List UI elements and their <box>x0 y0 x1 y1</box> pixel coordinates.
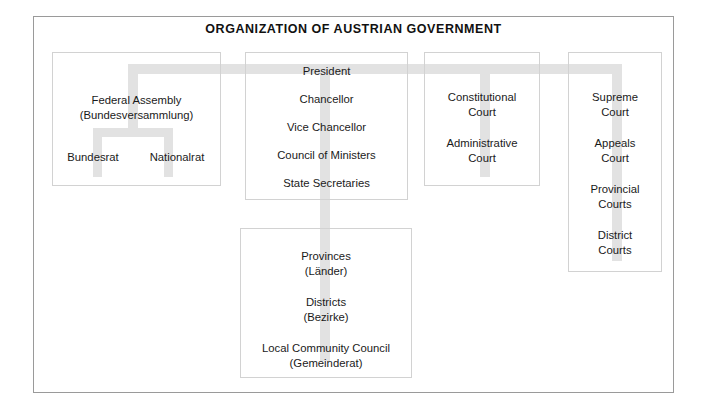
node-president: President <box>246 64 407 78</box>
box-federal-assembly: Federal Assembly (Bundesversammlung) Bun… <box>52 52 221 186</box>
node-district-courts-line1: District <box>569 228 661 242</box>
node-appeals-court-line1: Appeals <box>569 136 661 150</box>
box-high-courts: Constitutional Court Administrative Cour… <box>424 52 540 186</box>
node-administrative-court-line1: Administrative <box>425 136 539 150</box>
node-district-courts-line2: Courts <box>569 243 661 257</box>
node-local-community-council-line2: (Gemeinderat) <box>241 356 411 370</box>
node-appeals-court-line2: Court <box>569 151 661 165</box>
node-districts-line1: Districts <box>241 295 411 309</box>
node-vice-chancellor: Vice Chancellor <box>246 120 407 134</box>
box-regional-administration: Provinces (Länder) Districts (Bezirke) L… <box>240 228 412 378</box>
node-bundesrat: Bundesrat <box>59 150 127 164</box>
box-judiciary: Supreme Court Appeals Court Provincial C… <box>568 52 662 272</box>
box-executive: President Chancellor Vice Chancellor Cou… <box>245 52 408 200</box>
federal-assembly-heading-line1: Federal Assembly <box>53 93 220 107</box>
node-provinces-line2: (Länder) <box>241 264 411 278</box>
node-administrative-court-line2: Court <box>425 151 539 165</box>
node-council-of-ministers: Council of Ministers <box>246 148 407 162</box>
federal-assembly-heading-line2: (Bundesversammlung) <box>53 108 220 122</box>
node-supreme-court-line1: Supreme <box>569 90 661 104</box>
node-districts-line2: (Bezirke) <box>241 310 411 324</box>
node-provinces-line1: Provinces <box>241 249 411 263</box>
node-provincial-courts-line1: Provincial <box>569 182 661 196</box>
node-local-community-council-line1: Local Community Council <box>241 341 411 355</box>
page-title: ORGANIZATION OF AUSTRIAN GOVERNMENT <box>0 22 707 36</box>
org-chart-root: ORGANIZATION OF AUSTRIAN GOVERNMENT Fede… <box>0 0 707 413</box>
node-constitutional-court-line1: Constitutional <box>425 90 539 104</box>
node-supreme-court-line2: Court <box>569 105 661 119</box>
node-nationalrat: Nationalrat <box>141 150 213 164</box>
node-constitutional-court-line2: Court <box>425 105 539 119</box>
node-provincial-courts-line2: Courts <box>569 197 661 211</box>
node-state-secretaries: State Secretaries <box>246 176 407 190</box>
node-chancellor: Chancellor <box>246 92 407 106</box>
